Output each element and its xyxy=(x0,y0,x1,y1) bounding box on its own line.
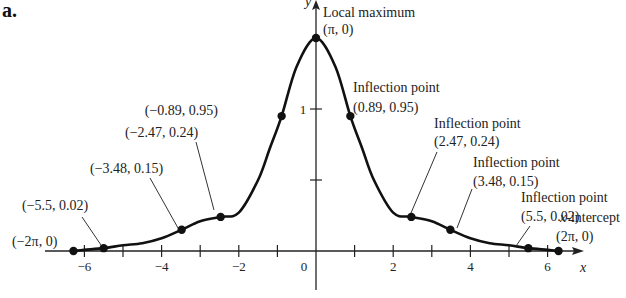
data-point xyxy=(216,213,224,221)
leader-line xyxy=(411,152,437,213)
panel-label: a. xyxy=(2,0,17,21)
point-coordinate-label: (2.47, 0.24) xyxy=(434,134,500,150)
leader-line xyxy=(150,178,178,228)
y-tick-label: 1 xyxy=(300,102,307,117)
x-axis-label: x xyxy=(579,260,587,275)
x-tick-label: 2 xyxy=(390,259,397,274)
point-coordinate-label: (−5.5, 0.02) xyxy=(22,198,89,214)
data-point xyxy=(446,226,454,234)
point-coordinate-label: (2π, 0) xyxy=(556,229,594,245)
data-point xyxy=(177,226,185,234)
data-point xyxy=(69,247,77,255)
chart: a. yx−6−4−202461 (−2π, 0)(−5.5, 0.02)(−3… xyxy=(0,0,626,298)
data-point xyxy=(100,244,108,252)
y-axis-label: y xyxy=(303,0,312,9)
data-point xyxy=(554,247,562,255)
point-caption: Local maximum xyxy=(323,5,415,20)
x-tick-label: 6 xyxy=(544,259,551,274)
data-point xyxy=(277,112,285,120)
point-coordinate-label: (−0.89, 0.95) xyxy=(145,103,219,119)
x-tick-label: −6 xyxy=(77,259,91,274)
point-caption: Inflection point xyxy=(434,116,521,131)
leader-line xyxy=(82,217,101,245)
x-tick-label: 4 xyxy=(467,259,474,274)
point-coordinate-label: (3.48, 0.15) xyxy=(473,174,539,190)
point-coordinate-label: (−2π, 0) xyxy=(12,234,58,250)
point-coordinate-label: (−3.48, 0.15) xyxy=(90,161,164,177)
point-coordinate-label: (−2.47, 0.24) xyxy=(125,125,199,141)
point-caption: Inflection point xyxy=(353,80,440,95)
leader-line xyxy=(516,226,530,246)
leader-line xyxy=(457,189,472,228)
x-tick-label: −2 xyxy=(232,259,246,274)
data-point xyxy=(407,213,415,221)
point-caption: Inflection point xyxy=(473,155,560,170)
data-point xyxy=(524,244,532,252)
point-coordinate-label: (0.89, 0.95) xyxy=(353,100,419,116)
point-caption: x-intercept xyxy=(559,210,620,225)
x-tick-label: −4 xyxy=(155,259,169,274)
point-coordinate-label: (π, 0) xyxy=(323,22,354,38)
leader-line xyxy=(196,142,214,210)
axes: yx−6−4−202461 xyxy=(45,0,587,290)
point-caption: Inflection point xyxy=(521,190,608,205)
leader-lines xyxy=(82,142,530,246)
data-point xyxy=(312,34,320,42)
x-tick-label: 0 xyxy=(301,259,308,274)
